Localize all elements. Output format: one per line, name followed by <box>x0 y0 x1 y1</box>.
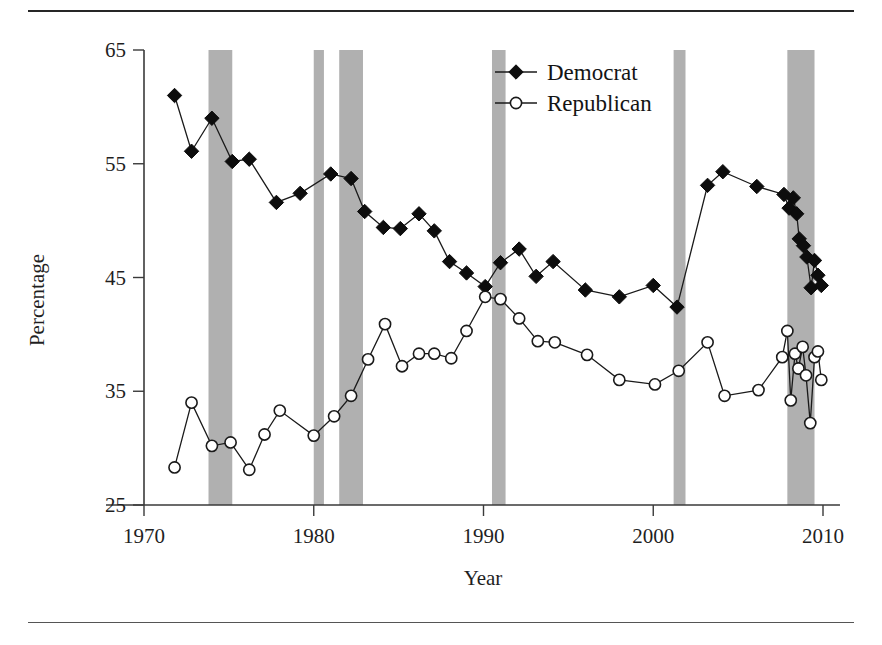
data-point-republican <box>429 348 440 359</box>
recession-band <box>492 50 506 505</box>
line-chart: 253545556519701980199020002010 DemocratR… <box>0 0 882 645</box>
data-point-republican <box>274 405 285 416</box>
data-point-republican <box>673 365 684 376</box>
data-point-republican <box>206 440 217 451</box>
data-point-democrat <box>324 167 338 181</box>
data-point-republican <box>549 337 560 348</box>
x-axis-tick-label: 1970 <box>123 524 165 548</box>
data-point-republican <box>480 291 491 302</box>
data-point-republican <box>259 429 270 440</box>
chart-legend: DemocratRepublican <box>495 60 652 116</box>
recession-band <box>339 50 363 505</box>
data-point-republican <box>719 390 730 401</box>
data-point-democrat <box>184 144 198 158</box>
data-point-democrat <box>442 254 456 268</box>
x-axis-tick-label: 1980 <box>293 524 335 548</box>
data-point-republican <box>805 418 816 429</box>
legend-marker-diamond-icon <box>509 65 523 79</box>
recession-band <box>674 50 686 505</box>
data-point-republican <box>800 370 811 381</box>
legend-marker-circle-icon <box>510 97 521 108</box>
data-point-republican <box>308 430 319 441</box>
data-point-republican <box>816 374 827 385</box>
data-point-democrat <box>242 152 256 166</box>
data-point-republican <box>329 411 340 422</box>
data-point-republican <box>461 325 472 336</box>
y-axis-tick-label: 65 <box>105 38 126 62</box>
figure-bottom-rule <box>28 622 854 623</box>
y-axis-tick-label: 45 <box>105 266 126 290</box>
data-point-republican <box>702 337 713 348</box>
x-axis-tick-label: 2000 <box>632 524 674 548</box>
x-axis-tick-label: 1990 <box>463 524 505 548</box>
data-point-democrat <box>393 221 407 235</box>
data-point-republican <box>186 397 197 408</box>
y-axis-tick-label: 55 <box>105 152 126 176</box>
data-point-republican <box>532 336 543 347</box>
data-point-republican <box>446 353 457 364</box>
data-point-republican <box>614 374 625 385</box>
data-point-republican <box>785 395 796 406</box>
recession-band <box>787 50 814 505</box>
data-point-republican <box>649 379 660 390</box>
data-point-republican <box>345 390 356 401</box>
legend-label-democrat: Democrat <box>547 60 638 85</box>
recession-bands-group <box>209 50 815 505</box>
data-point-republican <box>753 385 764 396</box>
figure-top-rule <box>28 10 854 12</box>
legend-label-republican: Republican <box>547 91 652 116</box>
data-point-democrat <box>612 290 626 304</box>
data-point-republican <box>362 354 373 365</box>
data-point-republican <box>413 348 424 359</box>
data-point-republican <box>777 352 788 363</box>
data-point-republican <box>379 319 390 330</box>
data-point-republican <box>225 437 236 448</box>
data-point-republican <box>495 294 506 305</box>
data-point-republican <box>169 462 180 473</box>
data-point-republican <box>782 325 793 336</box>
x-axis-title: Year <box>464 566 503 590</box>
data-point-democrat <box>167 88 181 102</box>
data-point-democrat <box>512 242 526 256</box>
figure-container: 253545556519701980199020002010 DemocratR… <box>0 0 882 645</box>
y-axis-title: Percentage <box>25 254 49 346</box>
data-point-republican <box>797 341 808 352</box>
data-point-republican <box>581 349 592 360</box>
y-axis-tick-label: 25 <box>105 493 126 517</box>
y-axis-tick-label: 35 <box>105 379 126 403</box>
data-point-republican <box>396 361 407 372</box>
data-point-democrat <box>459 266 473 280</box>
data-point-republican <box>514 313 525 324</box>
data-point-republican <box>244 464 255 475</box>
data-point-democrat <box>293 186 307 200</box>
data-point-republican <box>812 346 823 357</box>
data-point-democrat <box>269 195 283 209</box>
x-axis-tick-label: 2010 <box>802 524 844 548</box>
data-point-democrat <box>750 179 764 193</box>
